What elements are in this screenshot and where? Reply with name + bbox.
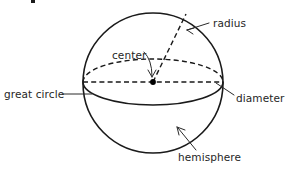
diameter-leader-line [216,83,234,95]
label-great-circle: great circle [4,89,64,100]
radius-line [153,14,186,82]
sphere-diagram-figure: radius center great circle diameter hemi… [0,0,292,173]
label-radius: radius [213,18,246,29]
radius-arrowhead-icon [187,28,194,34]
label-diameter: diameter [236,93,284,104]
equator-back-arc [83,59,223,82]
diagram-canvas [0,0,292,173]
label-hemisphere: hemisphere [178,152,241,163]
label-center: center [112,50,146,61]
equator-front-arc [83,82,223,105]
center-point-dot [150,79,156,85]
